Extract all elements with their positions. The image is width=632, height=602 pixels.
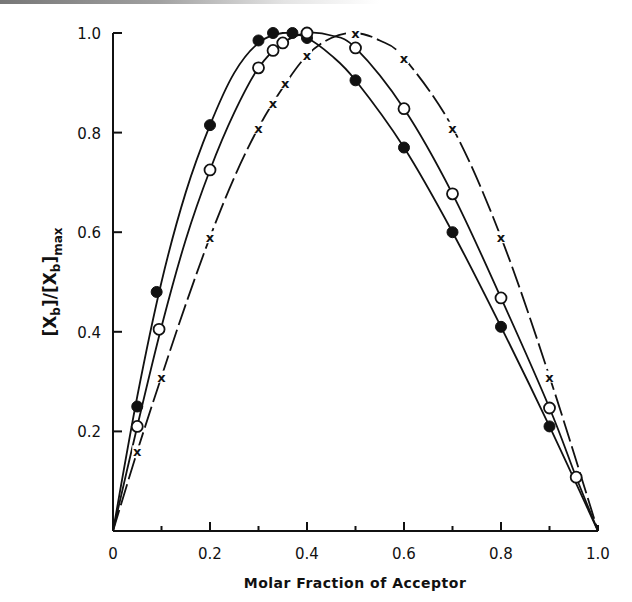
data-point-x: x <box>400 51 409 66</box>
x-tick-label: 1.0 <box>586 545 610 563</box>
data-point-filled <box>132 401 143 412</box>
data-point-open <box>154 324 165 335</box>
series-curve-filled-circle <box>113 33 598 531</box>
job-plot-chart: xxxxxxxxxxxx 00.20.40.60.81.00.20.40.60.… <box>0 0 632 602</box>
y-tick-label: 0.6 <box>77 224 101 242</box>
y-axis-title: [Xb]/[Xb]max <box>40 227 65 336</box>
data-point-open <box>132 421 143 432</box>
data-point-open <box>447 188 458 199</box>
data-point-filled <box>253 35 264 46</box>
data-point-x: x <box>303 48 312 63</box>
x-tick-label: 0 <box>108 545 118 563</box>
data-point-filled <box>544 421 555 432</box>
series-curve-open-circle <box>113 33 598 531</box>
data-point-filled <box>350 75 361 86</box>
data-point-x: x <box>157 370 166 385</box>
data-point-x: x <box>133 444 142 459</box>
data-point-x: x <box>545 370 554 385</box>
data-point-open <box>277 37 288 48</box>
data-point-x: x <box>448 121 457 136</box>
data-point-x: x <box>269 96 278 111</box>
y-tick-label: 0.4 <box>77 324 101 342</box>
x-tick-label: 0.8 <box>489 545 513 563</box>
data-point-filled <box>496 321 507 332</box>
y-tick-label: 0.2 <box>77 423 101 441</box>
data-point-x: x <box>351 26 360 41</box>
data-point-open <box>302 28 313 39</box>
data-point-open <box>544 402 555 413</box>
series-curve-x <box>113 33 598 531</box>
x-tick-label: 0.6 <box>392 545 416 563</box>
data-point-open <box>205 164 216 175</box>
data-point-open <box>350 42 361 53</box>
data-point-open <box>399 103 410 114</box>
y-tick-label: 1.0 <box>77 25 101 43</box>
axes <box>113 33 598 531</box>
x-axis-title: Molar Fraction of Acceptor <box>244 575 467 591</box>
data-point-filled <box>287 28 298 39</box>
data-point-filled <box>268 28 279 39</box>
x-tick-label: 0.4 <box>295 545 319 563</box>
data-point-open <box>268 45 279 56</box>
data-point-filled <box>205 120 216 131</box>
series-markers: xxxxxxxxxxxx <box>132 26 582 483</box>
data-point-filled <box>151 286 162 297</box>
series-curves <box>113 33 598 531</box>
data-point-open <box>253 62 264 73</box>
data-point-filled <box>399 142 410 153</box>
y-tick-label: 0.8 <box>77 125 101 143</box>
x-tick-label: 0.2 <box>198 545 222 563</box>
data-point-filled <box>447 227 458 238</box>
data-point-x: x <box>254 121 263 136</box>
data-point-open <box>571 472 582 483</box>
data-point-x: x <box>206 230 215 245</box>
data-point-x: x <box>281 76 290 91</box>
data-point-x: x <box>497 230 506 245</box>
data-point-open <box>496 292 507 303</box>
